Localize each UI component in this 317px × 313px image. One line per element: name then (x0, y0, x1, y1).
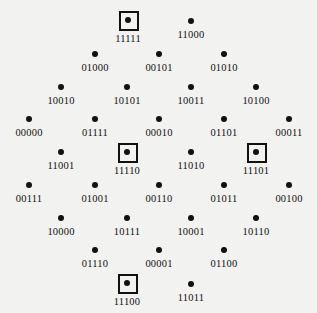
lattice-point-label: 01010 (210, 62, 237, 73)
lattice-point-label: 10010 (47, 95, 74, 106)
dot-icon (286, 182, 292, 188)
lattice-point-label: 11100 (114, 296, 140, 307)
dot-icon (188, 149, 194, 155)
lattice-point-label: 01101 (211, 127, 238, 138)
dot-icon (125, 17, 131, 23)
lattice-point-label: 00111 (16, 193, 42, 204)
dot-icon (188, 281, 194, 287)
dot-icon (253, 149, 259, 155)
dot-icon (286, 116, 292, 122)
dot-icon (26, 116, 32, 122)
lattice-point-label: 10000 (47, 226, 74, 237)
dot-icon (188, 215, 194, 221)
dot-icon (124, 149, 130, 155)
dot-icon (156, 182, 162, 188)
dot-icon (58, 149, 64, 155)
dot-icon (221, 247, 227, 253)
dot-icon (156, 116, 162, 122)
dot-icon (253, 84, 259, 90)
dot-icon (26, 182, 32, 188)
dot-icon (92, 247, 98, 253)
lattice-point-label: 11001 (48, 160, 75, 171)
dot-icon (92, 116, 98, 122)
lattice-point-label: 00011 (276, 127, 303, 138)
lattice-point-label: 10100 (242, 95, 269, 106)
dot-icon (221, 182, 227, 188)
dot-icon (58, 215, 64, 221)
dot-icon (188, 18, 194, 24)
dot-icon (92, 182, 98, 188)
dot-icon (221, 51, 227, 57)
dot-icon (188, 84, 194, 90)
lattice-point-label: 10110 (243, 226, 270, 237)
lattice-point-label: 01000 (81, 62, 108, 73)
lattice-point-label: 01100 (211, 258, 238, 269)
dot-icon (124, 84, 130, 90)
lattice-point-label: 10111 (114, 226, 140, 237)
dot-icon (221, 116, 227, 122)
lattice-point-label: 01001 (81, 193, 108, 204)
lattice-point-label: 11011 (178, 292, 204, 303)
lattice-point-label: 00000 (15, 127, 42, 138)
dot-icon (124, 280, 130, 286)
lattice-point-label: 11101 (243, 165, 269, 176)
lattice-point-label: 01110 (82, 258, 108, 269)
lattice-point-label: 01111 (82, 127, 108, 138)
lattice-point-label: 10101 (113, 95, 140, 106)
lattice-point-label: 11000 (178, 29, 205, 40)
lattice-point-label: 11110 (114, 165, 140, 176)
lattice-point-label: 01011 (211, 193, 238, 204)
lattice-point-label: 11111 (115, 33, 141, 44)
lattice-point-label: 00100 (275, 193, 302, 204)
dot-icon (124, 215, 130, 221)
lattice-point-label: 10011 (178, 95, 205, 106)
lattice-figure: 1111111000010000010101010100101010110011… (0, 0, 317, 313)
dot-icon (92, 51, 98, 57)
lattice-point-label: 00101 (145, 62, 172, 73)
dot-icon (156, 51, 162, 57)
lattice-point-label: 00001 (145, 258, 172, 269)
lattice-point-label: 11010 (178, 160, 205, 171)
dot-icon (253, 215, 259, 221)
lattice-point-label: 00110 (146, 193, 173, 204)
lattice-point-label: 10001 (177, 226, 204, 237)
dot-icon (58, 84, 64, 90)
lattice-point-label: 00010 (145, 127, 172, 138)
dot-icon (156, 247, 162, 253)
